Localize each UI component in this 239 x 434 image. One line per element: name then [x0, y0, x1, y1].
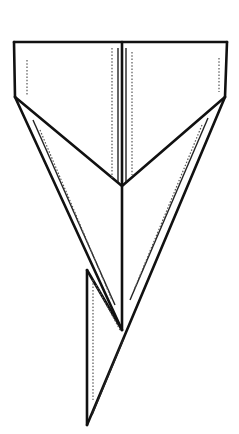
outline: [14, 42, 227, 425]
left-outer-edge: [15, 97, 122, 330]
inner-lines: [33, 48, 208, 415]
right-side-edge: [225, 42, 227, 97]
left-side-edge: [14, 42, 15, 97]
paper-airplane-diagram: [0, 0, 239, 434]
